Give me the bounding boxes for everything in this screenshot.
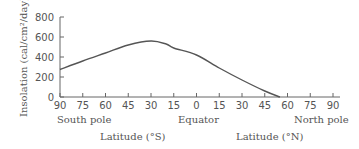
x-tick-label: 15 bbox=[213, 100, 226, 111]
x-tick-label: 60 bbox=[281, 100, 294, 111]
y-tick-label: 600 bbox=[35, 32, 54, 43]
y-tick-label: 400 bbox=[35, 52, 54, 63]
x-tick-label: 75 bbox=[304, 100, 317, 111]
x-axis-label-north: Latitude (°N) bbox=[236, 131, 303, 142]
x-tick-label: 45 bbox=[258, 100, 271, 111]
x-tick-label: 30 bbox=[145, 100, 158, 111]
equator-label: Equator bbox=[178, 114, 219, 125]
x-tick-label: 90 bbox=[54, 100, 67, 111]
x-tick-label: 45 bbox=[122, 100, 135, 111]
x-tick-label: 60 bbox=[99, 100, 112, 111]
x-axis-label-south: Latitude (°S) bbox=[100, 131, 166, 142]
x-axis: 9075604530150153045607590 bbox=[54, 93, 340, 111]
x-tick-label: 75 bbox=[76, 100, 89, 111]
insolation-curve bbox=[60, 41, 280, 97]
y-tick-label: 200 bbox=[35, 72, 54, 83]
y-axis: 0200400600800 bbox=[35, 12, 64, 103]
y-tick-label: 800 bbox=[35, 12, 54, 23]
south-pole-label: South pole bbox=[57, 114, 112, 125]
y-axis-label: Insolation (cal/cm²/day) bbox=[18, 0, 29, 117]
north-pole-label: North pole bbox=[294, 114, 349, 125]
x-tick-label: 30 bbox=[236, 100, 249, 111]
insolation-chart: 0200400600800 9075604530150153045607590 … bbox=[0, 0, 359, 149]
x-tick-label: 15 bbox=[167, 100, 180, 111]
x-tick-label: 90 bbox=[327, 100, 340, 111]
x-tick-label: 0 bbox=[193, 100, 199, 111]
